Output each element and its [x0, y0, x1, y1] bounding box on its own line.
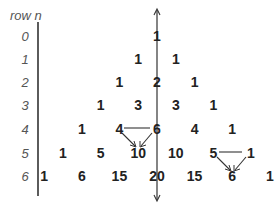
pascal-triangle-diagram: row n 0111121213133141464151510105161615…	[0, 0, 278, 210]
entry-r4-k4: 1	[228, 121, 236, 137]
entry-r4-k2: 6	[153, 121, 161, 137]
entry-r6-k5: 6	[228, 168, 236, 184]
entry-r5-k3: 10	[168, 145, 184, 161]
entry-r3-k3: 1	[209, 97, 217, 113]
entry-r5-k5: 1	[247, 145, 255, 161]
row-label-4: 4	[21, 122, 28, 137]
entry-r4-k0: 1	[78, 121, 86, 137]
entry-r1-k0: 1	[134, 51, 142, 67]
entry-r2-k1: 2	[153, 74, 161, 90]
entry-r5-k4: 5	[209, 145, 217, 161]
row-label-6: 6	[21, 169, 28, 184]
entry-r3-k1: 3	[134, 97, 142, 113]
arrow-1-to-6	[235, 157, 246, 170]
entry-r5-k1: 5	[97, 145, 105, 161]
row-label-1: 1	[21, 52, 28, 67]
row-label-2: 2	[21, 75, 28, 90]
entry-r5-k2: 10	[130, 145, 146, 161]
entry-r2-k0: 1	[115, 74, 123, 90]
entry-r4-k3: 4	[191, 121, 199, 137]
entry-r6-k4: 15	[187, 168, 203, 184]
entry-r5-k0: 1	[59, 145, 67, 161]
entry-r1-k1: 1	[172, 51, 180, 67]
row-label-0: 0	[21, 29, 28, 44]
entry-r3-k0: 1	[97, 97, 105, 113]
entry-r3-k2: 3	[172, 97, 180, 113]
row-label-5: 5	[21, 146, 28, 161]
entry-r2-k2: 1	[191, 74, 199, 90]
entry-r4-k1: 4	[115, 121, 123, 137]
entry-r6-k2: 15	[112, 168, 128, 184]
row-label-3: 3	[21, 98, 28, 113]
entry-r6-k3: 20	[149, 168, 165, 184]
entry-r0-k0: 1	[153, 28, 161, 44]
entry-r6-k6: 1	[266, 168, 274, 184]
entry-r6-k0: 1	[40, 168, 48, 184]
entry-r6-k1: 6	[78, 168, 86, 184]
row-n-header: row n	[10, 8, 42, 23]
